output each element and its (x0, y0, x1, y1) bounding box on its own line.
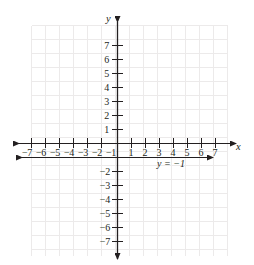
x-tick-label-4: 4 (171, 148, 176, 158)
graphed-line-equation-label: y = −1 (157, 159, 185, 169)
y-tick-label-2: 2 (104, 111, 109, 121)
y-tick-label-6: 6 (104, 55, 109, 65)
x-axis-label: x (236, 142, 241, 153)
x-tick-label-2: 2 (143, 148, 148, 158)
y-tick-label-neg-5: −5 (100, 209, 110, 219)
x-tick-label-3: 3 (157, 148, 162, 158)
plot-canvas (0, 0, 254, 265)
x-tick-label-7: 7 (213, 148, 218, 158)
y-tick-label-3: 3 (104, 97, 109, 107)
grid-lines (32, 26, 228, 256)
x-tick-label-6: 6 (199, 148, 204, 158)
y-tick-label-4: 4 (104, 83, 109, 93)
x-tick-label-1: 1 (129, 148, 134, 158)
x-tick-label-5: 5 (185, 148, 190, 158)
x-tick-label-neg-4: −4 (64, 148, 74, 158)
y-tick-label-neg-2: −2 (100, 167, 110, 177)
y-tick-label-7: 7 (104, 41, 109, 51)
y-tick-label-neg-7: −7 (100, 237, 110, 247)
y-tick-label-neg-3: −3 (100, 181, 110, 191)
y-axis (112, 22, 123, 259)
y-tick-label-1: 1 (104, 125, 109, 135)
x-tick-label-neg-2: −2 (92, 148, 102, 158)
x-tick-label-neg-5: −5 (50, 148, 60, 158)
y-tick-label-neg-4: −4 (100, 195, 110, 205)
x-tick-label-neg-6: −6 (36, 148, 46, 158)
coordinate-plane-figure: x y −7 −6 −5 −4 −3 −2 −1 1 2 3 4 5 6 7 7… (0, 0, 254, 265)
y-tick-label-5: 5 (104, 69, 109, 79)
x-tick-label-neg-1: −1 (106, 148, 116, 158)
y-axis-label: y (106, 14, 111, 25)
x-tick-label-neg-3: −3 (78, 148, 88, 158)
y-tick-label-neg-6: −6 (100, 223, 110, 233)
x-tick-label-neg-7: −7 (22, 148, 32, 158)
